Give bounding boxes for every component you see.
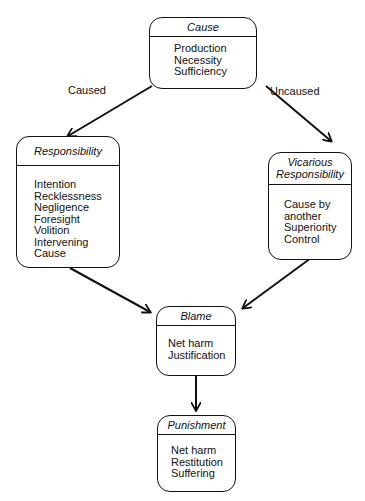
node-item: Cause by <box>284 199 351 211</box>
node-cause: Cause Production Necessity Sufficiency <box>149 17 257 89</box>
node-item: Superiority <box>284 222 351 234</box>
edge-responsibility-blame <box>70 268 150 312</box>
node-title: Blame <box>157 307 235 326</box>
node-item: Control <box>284 234 351 246</box>
edge-label-caused: Caused <box>68 84 106 96</box>
edge-label-uncaused: Uncaused <box>270 85 320 97</box>
node-item: Net harm <box>168 338 235 350</box>
node-item: Negligence <box>34 202 119 214</box>
edge-vicarious-blame <box>243 258 311 308</box>
node-item: Cause <box>34 248 119 260</box>
node-item: Volition <box>34 225 119 237</box>
node-title: Responsibility <box>17 137 119 166</box>
node-item: Production <box>174 43 256 55</box>
node-vicarious-responsibility: Vicarious Responsibility Cause by anothe… <box>268 152 352 260</box>
node-item: Suffering <box>171 468 235 480</box>
node-title: Punishment <box>158 416 235 435</box>
node-title: Vicarious Responsibility <box>269 153 351 185</box>
node-responsibility: Responsibility Intention Recklessness Ne… <box>16 136 120 268</box>
node-punishment: Punishment Net harm Restitution Sufferin… <box>157 415 236 492</box>
node-item: Sufficiency <box>174 66 256 78</box>
node-item: Net harm <box>171 445 235 457</box>
node-item: Intention <box>34 179 119 191</box>
node-blame: Blame Net harm Justification <box>156 306 236 376</box>
node-title: Cause <box>150 18 256 37</box>
node-item: Justification <box>168 350 235 362</box>
